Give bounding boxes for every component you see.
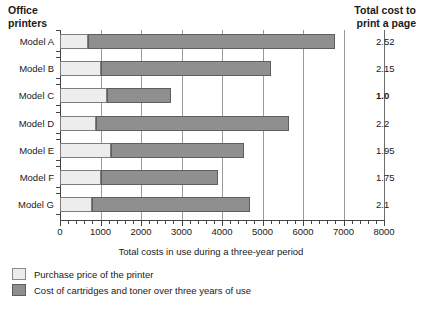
- bar-segment-purchase-price: [60, 61, 101, 76]
- x-tick-minor: [319, 221, 320, 224]
- x-tick-minor: [271, 221, 272, 224]
- bar-row: [60, 116, 384, 131]
- y-tick: [56, 160, 60, 161]
- x-tick-minor: [92, 221, 93, 224]
- bar-row: [60, 197, 384, 212]
- category-label: Model C: [2, 90, 54, 101]
- category-label: Model B: [2, 63, 54, 74]
- bar-row: [60, 143, 384, 158]
- y-tick: [56, 214, 60, 215]
- legend-label: Purchase price of the printer: [34, 269, 153, 280]
- chart-right-header: Total cost to print a page: [354, 4, 416, 29]
- x-tick-minor: [206, 221, 207, 224]
- x-tick-minor: [190, 221, 191, 224]
- y-tick: [56, 139, 60, 140]
- printer-cost-chart: Office printers Total cost to print a pa…: [0, 0, 422, 314]
- x-tick-minor: [279, 221, 280, 224]
- cost-per-page-value: 1.0: [376, 90, 416, 101]
- bar-segment-purchase-price: [60, 116, 96, 131]
- bar-segment-purchase-price: [60, 143, 111, 158]
- y-tick: [56, 105, 60, 106]
- cost-per-page-value: 2.52: [376, 36, 416, 47]
- x-tick-minor: [327, 221, 328, 224]
- left-header-line2: printers: [8, 17, 47, 30]
- y-tick: [56, 78, 60, 79]
- y-tick: [56, 133, 60, 134]
- x-tick-minor: [254, 221, 255, 224]
- x-tick-label: 7000: [324, 226, 364, 237]
- category-label: Model D: [2, 118, 54, 129]
- bar-row: [60, 170, 384, 185]
- x-tick-minor: [352, 221, 353, 224]
- x-tick-minor: [214, 221, 215, 224]
- category-label: Model F: [2, 172, 54, 183]
- x-tick-minor: [76, 221, 77, 224]
- y-tick: [56, 112, 60, 113]
- left-header-line1: Office: [8, 4, 47, 17]
- right-header-line2: print a page: [354, 17, 416, 30]
- x-tick-label: 3000: [162, 226, 202, 237]
- x-tick-minor: [368, 221, 369, 224]
- x-axis-title: Total costs in use during a three-year p…: [0, 246, 422, 257]
- y-tick: [56, 187, 60, 188]
- x-tick-label: 8000: [364, 226, 404, 237]
- legend-item: Purchase price of the printer: [12, 268, 251, 280]
- chart-legend: Purchase price of the printerCost of car…: [12, 268, 251, 300]
- x-tick-minor: [84, 221, 85, 224]
- x-tick-minor: [149, 221, 150, 224]
- x-tick-minor: [360, 221, 361, 224]
- cost-per-page-value: 2.15: [376, 63, 416, 74]
- x-tick-minor: [125, 221, 126, 224]
- x-tick-label: 5000: [243, 226, 283, 237]
- x-tick-label: 0: [40, 226, 80, 237]
- x-tick-minor: [311, 221, 312, 224]
- y-tick: [56, 84, 60, 85]
- x-tick-label: 4000: [202, 226, 242, 237]
- bar-segment-purchase-price: [60, 34, 88, 49]
- chart-left-header: Office printers: [8, 4, 47, 29]
- x-tick-minor: [165, 221, 166, 224]
- cost-per-page-value: 1.75: [376, 172, 416, 183]
- x-tick-minor: [68, 221, 69, 224]
- x-tick-minor: [173, 221, 174, 224]
- bar-segment-cartridge-cost: [92, 197, 250, 212]
- x-tick-label: 2000: [121, 226, 161, 237]
- bar-segment-cartridge-cost: [107, 88, 172, 103]
- cost-per-page-value: 2.1: [376, 199, 416, 210]
- bar-segment-purchase-price: [60, 88, 107, 103]
- legend-label: Cost of cartridges and toner over three …: [34, 285, 251, 296]
- bar-segment-cartridge-cost: [96, 116, 288, 131]
- cost-per-page-value: 1.95: [376, 145, 416, 156]
- bar-segment-cartridge-cost: [101, 61, 271, 76]
- y-tick: [56, 30, 60, 31]
- dark-swatch: [12, 284, 26, 296]
- x-tick-minor: [295, 221, 296, 224]
- category-label: Model E: [2, 145, 54, 156]
- plot-area: [60, 30, 384, 220]
- bar-segment-cartridge-cost: [101, 170, 218, 185]
- x-tick-minor: [287, 221, 288, 224]
- category-label: Model A: [2, 36, 54, 47]
- x-tick-minor: [109, 221, 110, 224]
- bar-segment-cartridge-cost: [88, 34, 335, 49]
- bar-row: [60, 34, 384, 49]
- y-tick: [56, 193, 60, 194]
- x-tick-minor: [335, 221, 336, 224]
- bar-row: [60, 88, 384, 103]
- y-tick: [56, 57, 60, 58]
- x-tick-minor: [230, 221, 231, 224]
- light-swatch: [12, 268, 26, 280]
- bar-segment-purchase-price: [60, 197, 92, 212]
- cost-per-page-value: 2.2: [376, 118, 416, 129]
- x-tick-label: 6000: [283, 226, 323, 237]
- right-header-line1: Total cost to: [354, 4, 416, 17]
- x-tick-minor: [246, 221, 247, 224]
- x-tick-minor: [238, 221, 239, 224]
- bar-segment-cartridge-cost: [111, 143, 245, 158]
- bar-segment-purchase-price: [60, 170, 101, 185]
- x-tick-minor: [376, 221, 377, 224]
- bar-row: [60, 61, 384, 76]
- x-tick-minor: [157, 221, 158, 224]
- x-tick-minor: [133, 221, 134, 224]
- y-tick: [56, 166, 60, 167]
